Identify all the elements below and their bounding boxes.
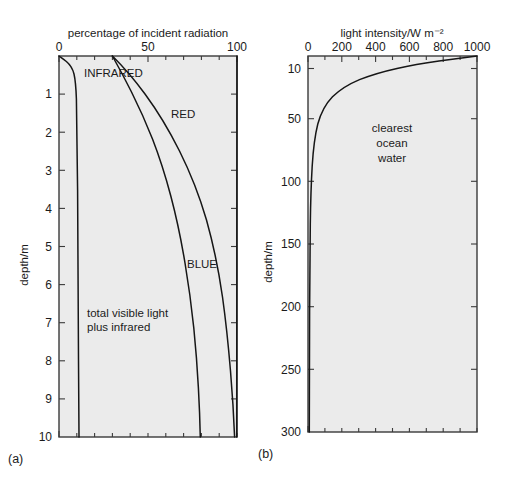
panel-b-ytick-150: 150 [281, 237, 301, 251]
panel-b-x-axis-title: light intensity/W m⁻² [340, 27, 443, 39]
panel-b-y-axis-title: depth/m [262, 241, 274, 283]
annotation-total-line2: plus infrared [87, 321, 150, 333]
annotation-total-line1: total visible light [87, 307, 169, 319]
panel-b-xtick-800: 800 [433, 40, 453, 54]
panel-a-ytick-8: 8 [45, 354, 52, 368]
panel-b-ytick-10: 10 [288, 62, 302, 76]
panel-b-ytick-200: 200 [281, 300, 301, 314]
panel-a-ytick-7: 7 [45, 316, 52, 330]
panel-a-y-axis-title: depth/m [18, 244, 30, 286]
annotation-blue: BLUE [187, 258, 217, 270]
panel-a-label: (a) [8, 452, 23, 466]
panel-a-xtick-100: 100 [227, 40, 247, 54]
annotation-water: water [377, 152, 406, 164]
annotation-clearest: clearest [372, 122, 413, 134]
panel-b-plot-frame [308, 56, 477, 432]
panel-a-xtick-50: 50 [141, 40, 155, 54]
panel-a-ytick-6: 6 [45, 278, 52, 292]
panel-b-xtick-600: 600 [399, 40, 419, 54]
panel-a-xtick-0: 0 [56, 40, 63, 54]
panel-a-ytick-5: 5 [45, 240, 52, 254]
panel-a-plot-frame [59, 56, 237, 437]
panel-a-ytick-10: 10 [39, 430, 53, 444]
ocean-light-figure: percentage of incident radiation [0, 0, 513, 479]
panel-b-xtick-400: 400 [366, 40, 386, 54]
panel-b-xtick-200: 200 [332, 40, 352, 54]
panel-a-ytick-4: 4 [45, 202, 52, 216]
panel-b-ytick-250: 250 [281, 363, 301, 377]
panel-b-xtick-1000: 1000 [464, 40, 491, 54]
panel-a-x-axis-title: percentage of incident radiation [68, 27, 228, 39]
figure-container: percentage of incident radiation [0, 0, 513, 479]
annotation-red: RED [171, 108, 195, 120]
panel-a-ytick-2: 2 [45, 126, 52, 140]
panel-a-ytick-1: 1 [45, 87, 52, 101]
panel-b-ytick-100: 100 [281, 175, 301, 189]
panel-b-xtick-0: 0 [305, 40, 312, 54]
panel-a-ytick-3: 3 [45, 164, 52, 178]
annotation-infrared: INFRARED [84, 67, 143, 79]
panel-a-ytick-9: 9 [45, 392, 52, 406]
panel-b-label: (b) [258, 447, 273, 461]
panel-b-ytick-300: 300 [281, 425, 301, 439]
annotation-ocean: ocean [376, 137, 407, 149]
panel-b-ytick-50: 50 [288, 112, 302, 126]
